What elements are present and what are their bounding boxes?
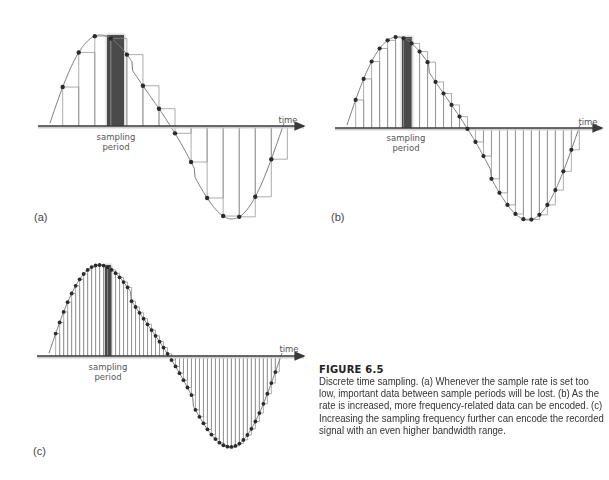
figure-caption: FIGURE 6.5 Discrete time sampling. (a) W…	[319, 364, 607, 437]
panel-a-tag: (a)	[34, 211, 47, 223]
caption-text: Discrete time sampling. (a) Whenever the…	[319, 376, 607, 437]
panel-c-plot	[37, 263, 304, 449]
panel-b-tag: (b)	[331, 211, 344, 223]
panel-c-sampling-period-label: sampling period	[82, 362, 134, 382]
panel-b-sampling-period-label: sampling period	[380, 133, 432, 153]
panel-a-sampling-period-label: sampling period	[90, 132, 142, 152]
panel-c-tag: (c)	[33, 445, 46, 457]
sampling-label: sampling	[380, 133, 432, 143]
figure-number: FIGURE 6.5	[319, 364, 607, 376]
period-label: period	[90, 142, 142, 152]
sampling-label: sampling	[90, 132, 142, 142]
panel-c-time-label: time	[277, 344, 301, 354]
panel-b-time-label: time	[576, 117, 600, 127]
period-label: period	[82, 372, 134, 382]
sampling-label: sampling	[82, 362, 134, 372]
panel-a-time-label: time	[276, 115, 300, 125]
period-label: period	[380, 143, 432, 153]
panel-b-plot	[335, 35, 602, 222]
panel-a-plot	[38, 34, 304, 219]
